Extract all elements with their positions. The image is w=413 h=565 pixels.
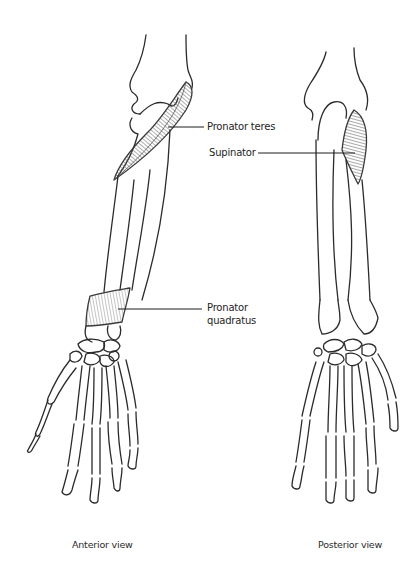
caption-anterior-view: Anterior view — [72, 539, 133, 550]
anterior-view — [27, 35, 192, 503]
ulna-posterior — [316, 140, 320, 300]
pronator-quadratus-muscle — [86, 288, 130, 326]
forearm-illustration — [0, 0, 413, 565]
carpals-anterior — [70, 339, 120, 366]
posterior-view — [292, 48, 398, 503]
label-supinator: Supinator — [209, 147, 256, 159]
pronator-teres-muscle — [114, 82, 192, 180]
caption-posterior-view: Posterior view — [318, 539, 382, 550]
carpals-posterior — [314, 339, 376, 365]
radius-anterior — [104, 176, 118, 292]
radius-posterior — [346, 160, 352, 300]
fingers-anterior — [62, 360, 138, 503]
label-pronator-quadratus-line2: quadratus — [207, 315, 256, 327]
humerus-anterior — [130, 35, 146, 114]
label-pronator-quadratus-line1: Pronator — [207, 302, 248, 314]
humerus-posterior — [304, 52, 326, 120]
supinator-muscle — [342, 110, 367, 184]
fingers-posterior — [292, 354, 398, 503]
label-pronator-teres: Pronator teres — [207, 121, 275, 133]
thumb-anterior — [27, 360, 76, 452]
ulna-anterior — [132, 170, 150, 290]
